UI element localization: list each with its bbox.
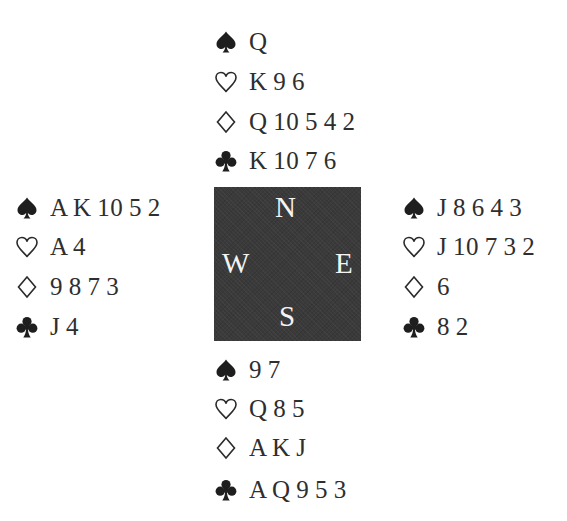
club-icon — [214, 478, 238, 502]
east-clubs-row: 8 2 — [402, 312, 469, 342]
north-spades-cards: Q — [249, 28, 268, 56]
east-spades-row: J 8 6 4 3 — [402, 193, 522, 223]
spade-icon — [214, 358, 238, 382]
west-clubs-row: J 4 — [15, 312, 79, 342]
south-diamonds-row: A K J — [214, 433, 306, 463]
compass-south-label: S — [279, 302, 295, 331]
north-spades-row: Q — [214, 27, 268, 57]
club-icon — [15, 315, 39, 339]
spade-icon — [402, 196, 426, 220]
east-clubs-cards: 8 2 — [437, 313, 469, 341]
north-clubs-cards: K 10 7 6 — [249, 147, 337, 175]
south-hearts-row: Q 8 5 — [214, 394, 305, 424]
west-hearts-row: A 4 — [15, 232, 86, 262]
diamond-icon — [214, 110, 238, 134]
south-spades-row: 9 7 — [214, 355, 281, 385]
south-clubs-cards: A Q 9 5 3 — [249, 476, 347, 504]
east-diamonds-row: 6 — [402, 272, 450, 302]
west-diamonds-cards: 9 8 7 3 — [50, 273, 119, 301]
north-hearts-row: K 9 6 — [214, 67, 305, 97]
club-icon — [214, 149, 238, 173]
south-spades-cards: 9 7 — [249, 356, 281, 384]
north-clubs-row: K 10 7 6 — [214, 146, 337, 176]
compass-box: N W E S — [214, 187, 361, 341]
diamond-icon — [402, 275, 426, 299]
heart-icon — [214, 70, 238, 94]
east-hearts-row: J 10 7 3 2 — [402, 232, 535, 262]
heart-icon — [214, 397, 238, 421]
west-spades-cards: A K 10 5 2 — [50, 194, 161, 222]
north-diamonds-cards: Q 10 5 4 2 — [249, 108, 356, 136]
compass-west-label: W — [222, 249, 249, 278]
diamond-icon — [15, 275, 39, 299]
compass-east-label: E — [335, 249, 353, 278]
heart-icon — [15, 235, 39, 259]
west-clubs-cards: J 4 — [50, 313, 79, 341]
spade-icon — [15, 196, 39, 220]
compass-north-label: N — [275, 193, 296, 222]
south-diamonds-cards: A K J — [249, 434, 306, 462]
west-diamonds-row: 9 8 7 3 — [15, 272, 119, 302]
club-icon — [402, 315, 426, 339]
east-diamonds-cards: 6 — [437, 273, 450, 301]
east-spades-cards: J 8 6 4 3 — [437, 194, 522, 222]
east-hearts-cards: J 10 7 3 2 — [437, 233, 535, 261]
south-hearts-cards: Q 8 5 — [249, 395, 305, 423]
west-spades-row: A K 10 5 2 — [15, 193, 161, 223]
south-clubs-row: A Q 9 5 3 — [214, 475, 347, 505]
heart-icon — [402, 235, 426, 259]
diamond-icon — [214, 436, 238, 460]
spade-icon — [214, 30, 238, 54]
west-hearts-cards: A 4 — [50, 233, 86, 261]
north-diamonds-row: Q 10 5 4 2 — [214, 107, 356, 137]
north-hearts-cards: K 9 6 — [249, 68, 305, 96]
